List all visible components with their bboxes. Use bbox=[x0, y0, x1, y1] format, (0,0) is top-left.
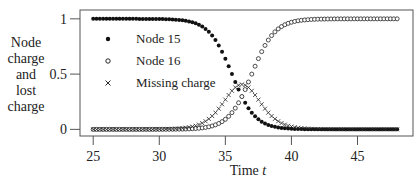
y-axis-label: Node charge and lost charge bbox=[7, 35, 44, 114]
chart: 00.51 2530354045 Node charge and lost ch… bbox=[0, 0, 420, 183]
data-point-node-15 bbox=[256, 117, 260, 121]
legend-label-node-15: Node 15 bbox=[136, 31, 180, 46]
data-point-missing-charge bbox=[217, 107, 221, 111]
y-tick-label: 0 bbox=[60, 122, 67, 137]
x-tick-label: 45 bbox=[351, 149, 365, 164]
data-point-missing-charge bbox=[240, 82, 244, 86]
data-point-node-15 bbox=[200, 25, 204, 29]
data-point-missing-charge bbox=[260, 102, 264, 106]
data-point-node-16 bbox=[266, 38, 270, 42]
data-point-node-15 bbox=[207, 30, 211, 34]
y-tick-label: 1 bbox=[60, 12, 67, 27]
legend-label-node-16: Node 16 bbox=[136, 53, 181, 68]
data-point-node-16 bbox=[233, 106, 237, 110]
y-axis-label-line: lost bbox=[16, 83, 36, 98]
data-point-node-16 bbox=[270, 34, 274, 38]
data-point-node-16 bbox=[227, 114, 231, 118]
data-point-node-15 bbox=[230, 72, 234, 76]
legend-marker-node-16 bbox=[106, 59, 110, 63]
data-point-node-15 bbox=[243, 101, 247, 105]
data-point-missing-charge bbox=[243, 83, 247, 87]
data-point-node-16 bbox=[223, 117, 227, 121]
data-point-node-16 bbox=[230, 111, 234, 115]
x-axis-label-variable: t bbox=[262, 163, 267, 178]
y-tick-label: 0.5 bbox=[50, 67, 68, 82]
data-point-node-16 bbox=[273, 30, 277, 34]
legend: Node 15 Node 16 Missing charge bbox=[106, 31, 216, 90]
x-axis-label-text: Time bbox=[230, 163, 259, 178]
data-point-node-16 bbox=[263, 43, 267, 47]
y-axis-label-line: and bbox=[16, 67, 36, 82]
data-point-node-16 bbox=[250, 72, 254, 76]
data-point-node-16 bbox=[237, 101, 241, 105]
data-point-missing-charge bbox=[273, 117, 277, 121]
data-point-node-16 bbox=[240, 95, 244, 99]
data-point-missing-charge bbox=[223, 98, 227, 102]
data-point-missing-charge bbox=[256, 98, 260, 102]
data-point-node-15 bbox=[204, 27, 208, 31]
data-point-node-15 bbox=[223, 57, 227, 61]
data-point-node-15 bbox=[227, 64, 231, 68]
data-point-missing-charge bbox=[237, 83, 241, 87]
data-point-node-15 bbox=[213, 38, 217, 42]
data-point-node-15 bbox=[253, 114, 257, 118]
y-axis-label-line: Node bbox=[11, 35, 41, 50]
data-point-node-16 bbox=[243, 88, 247, 92]
y-axis: 00.51 bbox=[50, 12, 81, 138]
x-tick-label: 35 bbox=[218, 149, 232, 164]
data-point-missing-charge bbox=[213, 111, 217, 115]
x-tick-label: 25 bbox=[86, 149, 100, 164]
data-point-node-16 bbox=[260, 50, 264, 54]
data-point-missing-charge bbox=[233, 85, 237, 89]
x-axis: 2530354045 bbox=[86, 136, 364, 164]
legend-label-missing-charge: Missing charge bbox=[136, 75, 216, 90]
data-point-node-15 bbox=[210, 34, 214, 38]
data-point-missing-charge bbox=[263, 107, 267, 111]
data-point-missing-charge bbox=[253, 93, 257, 97]
data-point-node-15 bbox=[184, 19, 188, 23]
data-point-missing-charge bbox=[227, 93, 231, 97]
y-axis-label-line: charge bbox=[7, 99, 44, 114]
x-tick-label: 30 bbox=[152, 149, 166, 164]
data-point-missing-charge bbox=[250, 89, 254, 93]
y-axis-label-line: charge bbox=[7, 51, 44, 66]
legend-marker-node-15 bbox=[106, 37, 110, 41]
data-point-node-15 bbox=[220, 50, 224, 54]
data-point-node-16 bbox=[253, 64, 257, 68]
plot-frame bbox=[80, 10, 413, 136]
data-point-node-15 bbox=[237, 88, 241, 92]
data-point-node-15 bbox=[217, 43, 221, 47]
x-tick-label: 40 bbox=[284, 149, 298, 164]
data-point-node-16 bbox=[395, 17, 399, 21]
data-point-missing-charge bbox=[220, 102, 224, 106]
legend-marker-missing-charge bbox=[106, 81, 111, 86]
data-point-node-16 bbox=[256, 57, 260, 61]
data-point-node-15 bbox=[273, 125, 277, 129]
data-point-node-15 bbox=[250, 111, 254, 115]
x-axis-label: Time t bbox=[230, 163, 268, 178]
data-point-node-15 bbox=[246, 106, 250, 110]
